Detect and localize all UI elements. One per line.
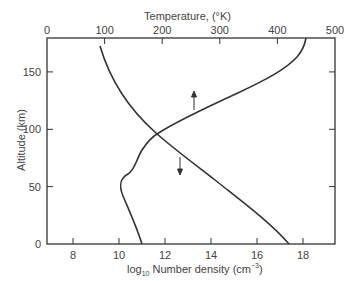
xlabel-log: log bbox=[127, 263, 142, 275]
top-axis-title: Temperature, (°K) bbox=[0, 10, 355, 22]
top-tick-label: 300 bbox=[211, 24, 229, 36]
bottom-tick-label: 14 bbox=[205, 249, 217, 261]
bottom-tick-label: 12 bbox=[159, 249, 171, 261]
bottom-axis-ticks bbox=[73, 238, 303, 244]
top-axis-ticks bbox=[105, 38, 278, 44]
arrow-up-icon bbox=[192, 91, 197, 110]
left-axis-title: Altitude (km) bbox=[15, 100, 27, 180]
bottom-tick-label: 16 bbox=[251, 249, 263, 261]
plot-frame bbox=[47, 38, 335, 244]
bottom-tick-label: 8 bbox=[70, 249, 76, 261]
left-tick-label: 0 bbox=[0, 238, 41, 250]
xlabel-sup: −3 bbox=[251, 262, 259, 269]
right-axis-ticks bbox=[329, 72, 335, 187]
top-tick-label: 200 bbox=[153, 24, 171, 36]
density-curve bbox=[100, 46, 289, 244]
temperature-curve bbox=[121, 38, 306, 244]
xlabel-main: Number density (cm bbox=[149, 263, 250, 275]
arrow-down-icon bbox=[178, 157, 183, 175]
chart-plot bbox=[0, 0, 355, 281]
bottom-tick-label: 18 bbox=[297, 249, 309, 261]
top-tick-label: 500 bbox=[326, 24, 344, 36]
top-tick-label: 0 bbox=[44, 24, 50, 36]
xlabel-suffix: ) bbox=[259, 263, 263, 275]
top-tick-label: 400 bbox=[268, 24, 286, 36]
bottom-tick-label: 10 bbox=[113, 249, 125, 261]
left-tick-label: 150 bbox=[0, 66, 41, 78]
left-axis-ticks bbox=[47, 72, 53, 187]
top-tick-label: 100 bbox=[95, 24, 113, 36]
bottom-axis-title: log10 Number density (cm−3) bbox=[127, 262, 263, 277]
left-tick-label: 50 bbox=[0, 181, 41, 193]
